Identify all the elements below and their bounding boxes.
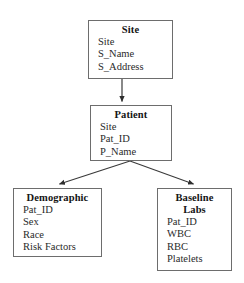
attribute-item: Race [23, 229, 97, 241]
entity-title-demographic: Demographic [14, 192, 101, 204]
attribute-list-site: Site S_Name S_Address [89, 36, 172, 73]
attribute-item: P_Name [100, 146, 167, 158]
attribute-list-patient: Site Pat_ID P_Name [91, 121, 171, 158]
attribute-item: Pat_ID [100, 133, 167, 145]
attribute-list-demographic: Pat_ID Sex Race Risk Factors [14, 204, 101, 254]
entity-box-baseline-labs[interactable]: Baseline Labs Pat_ID WBC RBC Platelets [157, 188, 232, 271]
entity-box-site[interactable]: Site Site S_Name S_Address [88, 20, 173, 79]
entity-title-baseline-labs-line1: Baseline [158, 192, 231, 204]
edge-patient-to-baseline-labs [130, 161, 194, 184]
attribute-list-baseline-labs: Pat_ID WBC RBC Platelets [158, 216, 231, 266]
attribute-item: Sex [23, 216, 97, 228]
attribute-item: Site [100, 121, 167, 133]
entity-title-site: Site [89, 24, 172, 36]
attribute-item: WBC [167, 228, 227, 240]
attribute-item: Platelets [167, 253, 227, 265]
attribute-item: Pat_ID [167, 216, 227, 228]
attribute-item: S_Address [98, 61, 168, 73]
attribute-item: RBC [167, 241, 227, 253]
entity-box-patient[interactable]: Patient Site Pat_ID P_Name [90, 105, 172, 161]
attribute-item: Pat_ID [23, 204, 97, 216]
attribute-item: Site [98, 36, 168, 48]
attribute-item: Risk Factors [23, 241, 97, 253]
edge-patient-to-demographic [60, 161, 131, 184]
entity-box-demographic[interactable]: Demographic Pat_ID Sex Race Risk Factors [13, 188, 102, 257]
attribute-item: S_Name [98, 48, 168, 60]
entity-title-patient: Patient [91, 109, 171, 121]
er-diagram-canvas: Site Site S_Name S_Address Patient Site … [0, 0, 244, 283]
entity-title-baseline-labs-line2: Labs [158, 204, 231, 216]
